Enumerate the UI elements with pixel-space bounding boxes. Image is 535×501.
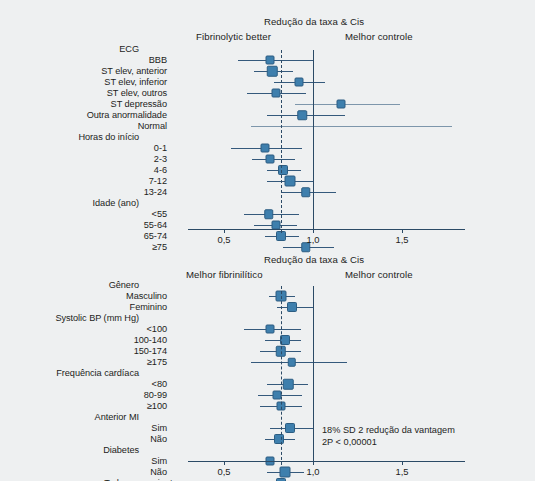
reference-line-no-effect bbox=[313, 50, 314, 229]
x-axis-tick bbox=[402, 229, 403, 233]
pooled-estimate-line bbox=[281, 50, 282, 233]
x-axis-tick-label: 0,5 bbox=[217, 234, 230, 245]
data-point-marker bbox=[260, 144, 269, 153]
data-point-marker bbox=[267, 66, 278, 77]
annotation-p-value: 2P < 0,00001 bbox=[322, 437, 377, 449]
data-point-marker bbox=[283, 379, 294, 390]
annotation-effect-size: 18% SD 2 redução da vantagem bbox=[322, 425, 455, 437]
data-point-marker bbox=[278, 165, 288, 175]
data-point-marker bbox=[279, 467, 290, 478]
data-point-marker bbox=[266, 155, 275, 164]
x-axis-tick bbox=[224, 229, 225, 233]
data-point-marker bbox=[287, 358, 296, 367]
data-point-marker bbox=[266, 56, 275, 65]
data-point-marker bbox=[285, 423, 295, 433]
x-axis-tick-label: 0,5 bbox=[217, 466, 230, 477]
panel-bottom-plot-area: 0,51,01,5 bbox=[0, 252, 535, 482]
x-axis-tick bbox=[224, 461, 225, 465]
panel-top-plot-area: 0,51,01,5 bbox=[0, 0, 535, 256]
data-point-marker bbox=[274, 434, 284, 444]
x-axis bbox=[188, 461, 465, 462]
x-axis-tick bbox=[313, 229, 314, 233]
x-axis-tick-label: 1,0 bbox=[306, 466, 319, 477]
forest-plot-panel-top: Redução da taxa & Cis Fibrinolytic bette… bbox=[0, 0, 535, 256]
x-axis bbox=[188, 229, 465, 230]
x-axis-tick bbox=[313, 461, 314, 465]
data-point-marker bbox=[287, 302, 297, 312]
reference-line-no-effect bbox=[313, 286, 314, 461]
x-axis-tick-label: 1,5 bbox=[395, 234, 408, 245]
data-point-marker bbox=[276, 478, 286, 488]
x-axis-tick-label: 1,5 bbox=[395, 466, 408, 477]
x-axis-tick-label: 1,0 bbox=[306, 234, 319, 245]
confidence-interval-line bbox=[295, 104, 400, 105]
data-point-marker bbox=[284, 176, 295, 187]
data-point-marker bbox=[298, 110, 308, 120]
x-axis-tick bbox=[402, 461, 403, 465]
data-point-marker bbox=[301, 187, 311, 197]
confidence-interval-line bbox=[238, 60, 313, 61]
forest-plot-panel-bottom: Redução da taxa & Cis Melhor fibrinilíti… bbox=[0, 252, 535, 482]
forest-plot-figure: Redução da taxa & Cis Fibrinolytic bette… bbox=[0, 0, 535, 501]
data-point-marker bbox=[266, 325, 275, 334]
data-point-marker bbox=[264, 209, 274, 219]
pooled-estimate-line bbox=[281, 286, 282, 465]
data-point-marker bbox=[337, 100, 346, 109]
data-point-marker bbox=[294, 78, 303, 87]
data-point-marker bbox=[271, 89, 280, 98]
confidence-interval-line bbox=[251, 362, 347, 363]
